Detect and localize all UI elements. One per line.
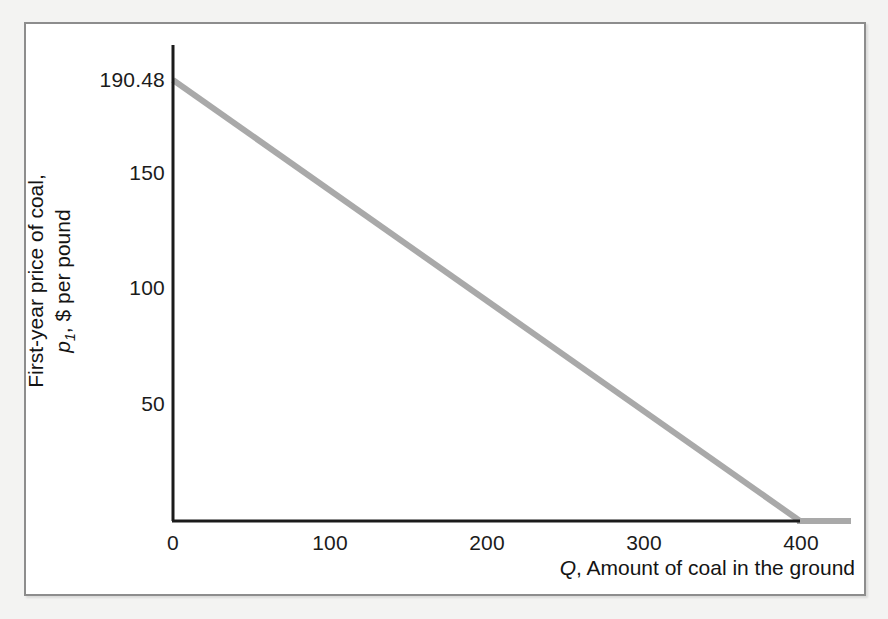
- x-tick-label-300: 300: [626, 531, 662, 555]
- x-tick-label-0: 0: [167, 531, 179, 555]
- x-axis-title: Q, Amount of coal in the ground: [330, 556, 855, 580]
- y-tick-label-190: 190.48: [60, 68, 165, 92]
- figure-page: First-year price of coal, p1, $ per poun…: [0, 0, 888, 619]
- x-axis-symbol: Q: [560, 556, 576, 579]
- demand-line: [173, 80, 800, 521]
- x-tick-label-400: 400: [783, 531, 819, 555]
- x-tick-label-200: 200: [469, 531, 505, 555]
- x-tick-label-100: 100: [312, 531, 348, 555]
- y-tick-label-50: 50: [60, 392, 165, 416]
- x-axis-title-rest: , Amount of coal in the ground: [576, 556, 855, 579]
- chart-canvas: [0, 0, 888, 619]
- y-tick-label-100: 100: [60, 276, 165, 300]
- y-tick-label-150: 150: [60, 161, 165, 185]
